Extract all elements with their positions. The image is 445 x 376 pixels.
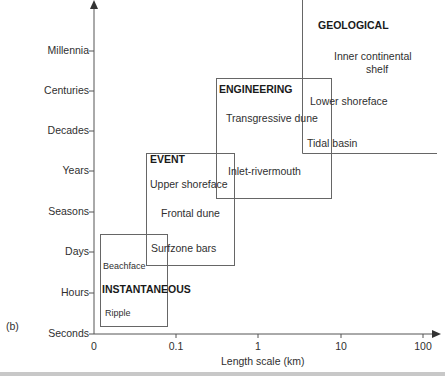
event-title: EVENT <box>150 153 185 165</box>
xtick-0-1: 0.1 <box>169 340 184 352</box>
ytick-millennia: Millennia <box>48 44 89 56</box>
event-feature-upper-shoreface: Upper shoreface <box>150 178 228 190</box>
event-feature-frontal-dune: Frontal dune <box>161 207 220 219</box>
engineering-feature-transgressive-dune: Transgressive dune <box>226 112 318 124</box>
instantaneous-feature-beachface: Beachface <box>103 261 146 271</box>
y-axis-arrow-icon <box>90 0 98 9</box>
geological-feature-inner-shelf-2: shelf <box>366 63 388 75</box>
engineering-feature-inlet-rivermouth: Inlet-rivermouth <box>228 165 301 177</box>
geological-title: GEOLOGICAL <box>318 19 389 31</box>
geological-feature-tidal-basin: Tidal basin <box>307 137 357 149</box>
ytick-seasons: Seasons <box>48 205 89 217</box>
geological-feature-inner-shelf-1: Inner continental <box>334 50 412 62</box>
ytick-centuries: Centuries <box>44 84 89 96</box>
xtick-1: 1 <box>255 340 261 352</box>
instantaneous-feature-ripple: Ripple <box>105 308 131 318</box>
engineering-title: ENGINEERING <box>219 83 293 95</box>
xtick-100: 100 <box>414 340 432 352</box>
panel-label: (b) <box>6 320 19 332</box>
event-feature-surfzone-bars: Surfzone bars <box>151 242 216 254</box>
x-axis-arrow-icon <box>432 330 441 338</box>
bottom-divider <box>0 372 445 376</box>
instantaneous-title: INSTANTANEOUS <box>102 283 191 295</box>
geological-feature-lower-shoreface: Lower shoreface <box>310 95 388 107</box>
scale-diagram: Millennia Centuries Decades Years Season… <box>0 0 445 376</box>
x-axis-label: Length scale (km) <box>221 355 304 367</box>
xtick-10: 10 <box>335 340 347 352</box>
ytick-hours: Hours <box>61 286 89 298</box>
ytick-years: Years <box>63 164 89 176</box>
ytick-seconds: Seconds <box>48 327 89 339</box>
xtick-0: 0 <box>91 340 97 352</box>
ytick-days: Days <box>65 245 89 257</box>
ytick-decades: Decades <box>48 124 89 136</box>
